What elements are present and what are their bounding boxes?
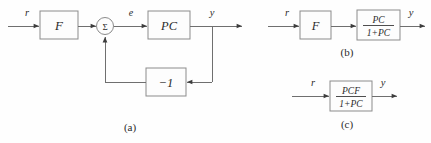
summing-junction-symbol: Σ	[102, 22, 107, 32]
label-signal-y-a: y	[209, 7, 215, 18]
label-signal-r-a: r	[25, 7, 30, 18]
block-label-closedloop-denominator-b: 1+PC	[367, 28, 391, 38]
caption-c: (c)	[341, 118, 354, 131]
block-diagram-svg: r F Σ e PC y −1	[0, 0, 431, 143]
diagram-a-group: r F Σ e PC y −1	[8, 7, 242, 134]
diagram-c-group: r PCF 1+PC y (c)	[292, 77, 397, 131]
label-signal-y-c: y	[380, 77, 386, 88]
label-signal-y-b: y	[408, 7, 414, 18]
block-label-total-numerator-c: PCF	[341, 86, 360, 96]
caption-b: (b)	[341, 46, 354, 59]
label-signal-r-b: r	[285, 7, 290, 18]
label-signal-e-a: e	[129, 7, 134, 18]
block-label-closedloop-numerator-b: PC	[371, 15, 385, 25]
block-label-negative-one: −1	[159, 76, 174, 90]
block-label-PC-a: PC	[160, 19, 178, 33]
label-signal-r-c: r	[311, 77, 316, 88]
caption-a: (a)	[124, 121, 137, 134]
block-label-F-b: F	[311, 19, 320, 33]
block-label-total-denominator-c: 1+PC	[339, 99, 363, 109]
block-label-F-a: F	[54, 18, 64, 33]
figure-canvas: r F Σ e PC y −1	[0, 0, 431, 143]
diagram-b-group: r F PC 1+PC y (b)	[268, 7, 425, 59]
